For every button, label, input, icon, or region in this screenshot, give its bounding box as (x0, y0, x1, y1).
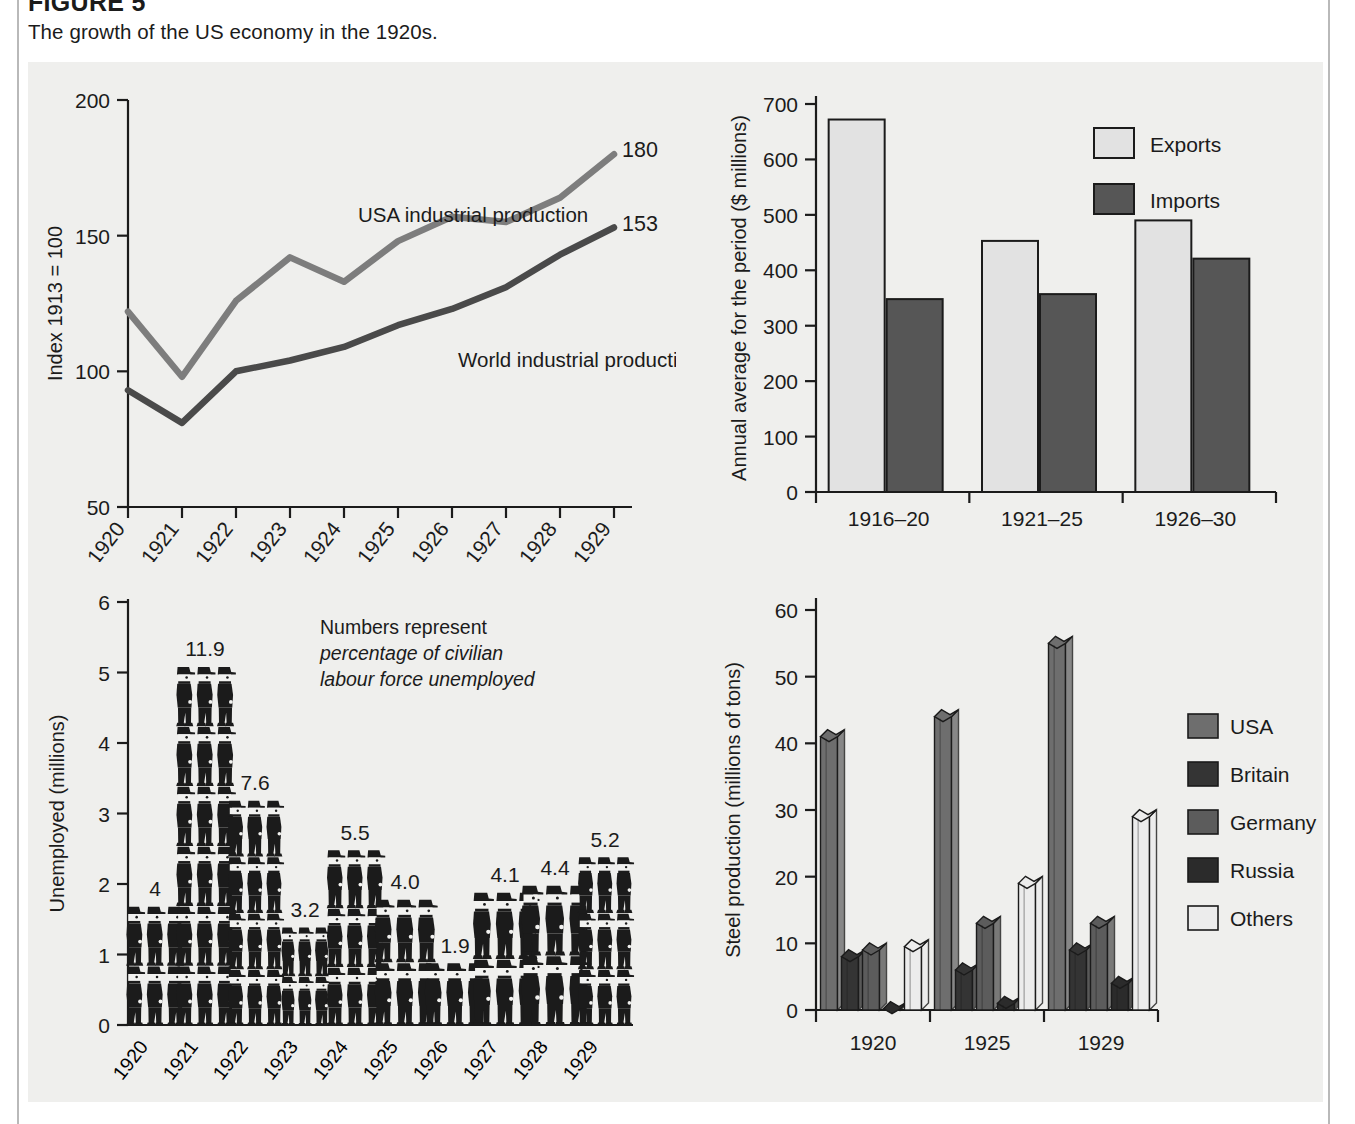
pictogram-person (266, 801, 284, 857)
x-tick-label: 1916–20 (848, 507, 930, 530)
pictogram-person (347, 909, 366, 967)
y-tick-label: 200 (75, 89, 110, 112)
pictogram-person (197, 847, 216, 906)
pictogram-person (367, 850, 386, 908)
y-tick-label: 20 (775, 866, 798, 889)
pictogram-person (147, 967, 166, 1026)
pictogram-person (597, 970, 615, 1026)
x-tick-label: 1920 (108, 1036, 152, 1084)
pictogram-person (374, 900, 394, 963)
legend-swatch (1094, 184, 1134, 214)
pictogram-person (578, 857, 596, 913)
y-tick-label: 3 (98, 803, 110, 826)
bar (863, 950, 880, 1010)
pictogram-person (126, 907, 145, 966)
pictogram-person (176, 727, 195, 786)
legend-swatch (1188, 858, 1218, 882)
figure-page: FIGURE 5 The growth of the US economy in… (0, 0, 1355, 1124)
bar-side (922, 940, 929, 1010)
pictogram-person (176, 847, 195, 906)
pictogram-person (616, 857, 634, 913)
y-tick-label: 150 (75, 225, 110, 248)
pictogram-person (266, 970, 284, 1026)
pictogram-person (496, 960, 517, 1026)
y-tick-label: 10 (775, 932, 798, 955)
pictogram-person (396, 963, 416, 1026)
pictogram-person (197, 727, 216, 786)
chart-annotation-line: Numbers represent (320, 616, 487, 638)
bar-side (952, 710, 959, 1010)
bar (1070, 950, 1087, 1010)
y-tick-label: 2 (98, 873, 110, 896)
chart-steel: 0102030405060Steel production (millions … (676, 562, 1323, 1102)
x-tick-label: 1920 (82, 517, 129, 562)
pictogram-person (266, 857, 284, 913)
pictogram-person (197, 667, 216, 726)
x-tick-label: 1928 (508, 1036, 552, 1084)
legend-swatch (1188, 810, 1218, 834)
y-tick-label: 0 (786, 999, 798, 1022)
bar (829, 120, 885, 492)
y-tick-label: 200 (763, 370, 798, 393)
legend-label: Imports (1150, 189, 1220, 212)
pictogram-person (616, 970, 634, 1026)
bar (905, 947, 922, 1010)
pictogram-person (347, 968, 366, 1026)
pictogram-person (197, 907, 216, 966)
bar (821, 737, 838, 1010)
pictogram-person (578, 914, 596, 970)
page-rule-right (1328, 0, 1330, 1124)
legend-swatch (1094, 128, 1134, 158)
pictogram-person (228, 857, 246, 913)
bar (982, 241, 1038, 492)
bar-data-label: 5.2 (590, 828, 619, 851)
figure-number: FIGURE 5 (28, 0, 146, 17)
legend-swatch (1188, 906, 1218, 930)
chart-industrial-production: 50100150200Index 1913 = 1001920192119221… (28, 62, 676, 562)
bar-side (1150, 810, 1157, 1010)
x-tick-label: 1921–25 (1001, 507, 1083, 530)
pictogram-person (446, 963, 466, 1026)
y-tick-label: 300 (763, 315, 798, 338)
bar-side (1036, 876, 1043, 1010)
pictogram-person (266, 914, 284, 970)
y-tick-label: 0 (98, 1014, 110, 1037)
pictogram-person (473, 893, 494, 959)
legend-label: Others (1230, 907, 1293, 930)
bar (956, 970, 973, 1010)
pictogram-person (228, 914, 246, 970)
bar (1049, 643, 1066, 1010)
bar-side (880, 943, 887, 1010)
x-tick-label: 1929 (558, 1036, 602, 1084)
bar (1091, 923, 1108, 1010)
y-tick-label: 4 (98, 732, 110, 755)
legend: ExportsImports (1094, 128, 1221, 214)
bar (1135, 220, 1191, 492)
pictogram-person (616, 914, 634, 970)
x-tick-label: 1929 (568, 517, 615, 562)
chart-trade: 0100200300400500600700Annual average for… (676, 62, 1323, 562)
x-tick-label: 1921 (136, 517, 183, 562)
pictogram-person (176, 967, 195, 1026)
x-tick-label: 1928 (514, 517, 561, 562)
y-tick-label: 50 (775, 666, 798, 689)
legend-label: USA (1230, 715, 1273, 738)
y-tick-label: 700 (763, 93, 798, 116)
series-end-value: 153 (622, 212, 658, 236)
bar-data-label: 4 (149, 877, 161, 900)
bar-data-label: 11.9 (185, 637, 224, 660)
bar-data-label: 1.9 (440, 934, 469, 957)
pictogram-person (521, 886, 543, 956)
pictogram-person (281, 977, 297, 1026)
y-tick-label: 400 (763, 259, 798, 282)
legend-swatch (1188, 714, 1218, 738)
y-tick-label: 100 (75, 360, 110, 383)
pictogram-person (473, 960, 494, 1026)
pictogram-person (176, 667, 195, 726)
pictogram-person (418, 900, 438, 963)
pictogram-person (424, 963, 444, 1026)
y-tick-label: 500 (763, 204, 798, 227)
bar (1040, 294, 1096, 492)
pictogram-person (578, 970, 596, 1026)
x-tick-label: 1924 (308, 1036, 352, 1084)
